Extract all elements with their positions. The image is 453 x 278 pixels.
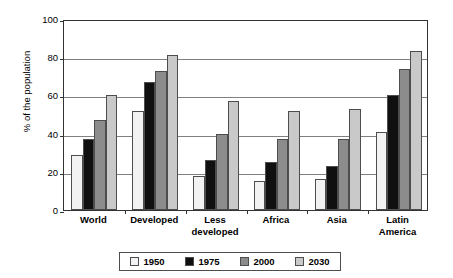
bar <box>132 111 144 210</box>
bar-group <box>125 21 186 210</box>
x-axis-category-label-line: Asia <box>306 214 367 226</box>
legend-label: 1950 <box>143 256 164 267</box>
legend-item: 1975 <box>185 256 219 267</box>
bar <box>254 181 266 210</box>
x-axis-category-label-line: World <box>63 214 124 226</box>
x-axis-category-label-line: America <box>367 226 428 238</box>
bar <box>94 120 106 210</box>
bar-group <box>307 21 368 210</box>
bar <box>349 109 361 210</box>
x-axis-category-label: Lessdeveloped <box>185 214 246 238</box>
bar <box>144 82 156 210</box>
bar <box>338 139 350 210</box>
bar <box>277 139 289 210</box>
bar <box>387 95 399 210</box>
legend-item: 2000 <box>240 256 274 267</box>
legend-item: 2030 <box>295 256 329 267</box>
x-axis-category-label: Asia <box>306 214 367 226</box>
bar <box>106 95 118 210</box>
legend-label: 1975 <box>198 256 219 267</box>
bar <box>376 132 388 210</box>
legend-label: 2030 <box>308 256 329 267</box>
x-axis-category-label: Developed <box>124 214 185 226</box>
x-axis-category-label-line: Africa <box>246 214 307 226</box>
bar <box>326 166 338 210</box>
bar-group <box>368 21 429 210</box>
x-axis-category-labels: WorldDevelopedLessdevelopedAfricaAsiaLat… <box>63 214 428 252</box>
x-axis-category-label-line: developed <box>185 226 246 238</box>
y-axis-tick-label: 80 <box>32 53 58 63</box>
y-axis-tick-label: 100 <box>32 15 58 25</box>
bar <box>399 69 411 210</box>
bar <box>155 71 167 210</box>
legend-swatch <box>185 257 194 266</box>
y-axis-tick-labels: 020406080100 <box>30 0 58 278</box>
x-axis-category-label-line: Less <box>185 214 246 226</box>
x-axis-category-label: World <box>63 214 124 226</box>
bar <box>83 139 95 210</box>
x-axis-category-label: Africa <box>246 214 307 226</box>
legend-swatch <box>130 257 139 266</box>
bar-chart: % of the population 020406080100 WorldDe… <box>0 0 453 278</box>
chart-legend: 1950197520002030 <box>119 252 341 271</box>
legend-label: 2000 <box>253 256 274 267</box>
plot-area <box>63 20 428 211</box>
bar <box>167 55 179 210</box>
bars-layer <box>64 21 427 210</box>
x-axis-category-label-line: Developed <box>124 214 185 226</box>
bar <box>410 51 422 210</box>
bar <box>228 101 240 210</box>
bar <box>193 176 205 210</box>
bar-group <box>247 21 308 210</box>
legend-swatch <box>295 257 304 266</box>
legend-item: 1950 <box>130 256 164 267</box>
bar <box>315 179 327 210</box>
bar-group <box>64 21 125 210</box>
y-axis-tick-mark <box>60 212 64 213</box>
bar <box>288 111 300 210</box>
x-axis-category-label: LatinAmerica <box>367 214 428 238</box>
legend-swatch <box>240 257 249 266</box>
y-axis-tick-label: 60 <box>32 92 58 102</box>
bar <box>71 155 83 210</box>
bar <box>205 160 217 210</box>
bar <box>216 134 228 210</box>
bar <box>265 162 277 210</box>
y-axis-tick-label: 0 <box>32 206 58 216</box>
y-axis-tick-label: 20 <box>32 168 58 178</box>
y-axis-tick-label: 40 <box>32 130 58 140</box>
bar-group <box>186 21 247 210</box>
x-axis-category-label-line: Latin <box>367 214 428 226</box>
